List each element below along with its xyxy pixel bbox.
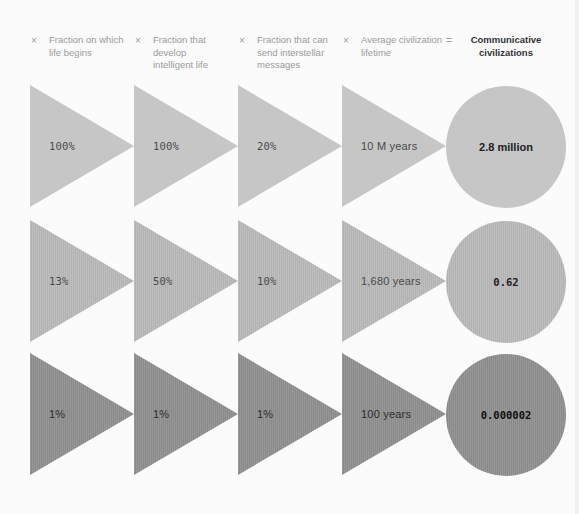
value-civilization-lifetime: 10 M years	[361, 85, 417, 207]
result-circle: 2.8 million	[446, 86, 566, 208]
triangle-shape	[238, 353, 342, 475]
scenario-row-pessimistic: 1% 1% 1% 100 years 0.000002	[0, 353, 579, 477]
value-interstellar-messages: 1%	[257, 353, 273, 475]
triangle-shape	[30, 85, 134, 207]
column-header-civilization-lifetime: Average civilization lifetime	[361, 34, 449, 59]
column-header-intelligent-life: Fraction that develop intelligent life	[153, 34, 223, 72]
triangle-shape	[134, 353, 238, 475]
equation-header: × Fraction on which life begins × Fracti…	[0, 0, 579, 80]
triangle-shape	[30, 353, 134, 475]
value-civilization-lifetime: 100 years	[361, 353, 411, 475]
triangle-shape	[134, 85, 238, 207]
result-value: 0.000002	[481, 409, 532, 421]
value-intelligent-life: 100%	[153, 85, 179, 207]
multiply-operator: ×	[239, 34, 245, 47]
triangle-shape	[238, 220, 342, 342]
value-civilization-lifetime: 1,680 years	[361, 220, 421, 342]
result-circle: 0.000002	[446, 354, 566, 476]
value-life-begins: 1%	[49, 353, 65, 475]
value-life-begins: 100%	[49, 85, 75, 207]
scenario-row-optimistic: 100% 100% 20% 10 M years 2.8 million	[0, 85, 579, 209]
value-life-begins: 13%	[49, 220, 69, 342]
value-intelligent-life: 1%	[153, 353, 169, 475]
triangle-shape	[238, 85, 342, 207]
result-value: 2.8 million	[479, 141, 533, 153]
value-interstellar-messages: 20%	[257, 85, 277, 207]
triangle-shape	[134, 220, 238, 342]
result-value: 0.62	[493, 276, 518, 288]
column-header-life-begins: Fraction on which life begins	[49, 34, 133, 59]
scenario-row-moderate: 13% 50% 10% 1,680 years 0.62	[0, 220, 579, 344]
multiply-operator: ×	[343, 34, 349, 47]
multiply-operator: ×	[135, 34, 141, 47]
triangle-shape	[30, 220, 134, 342]
result-circle: 0.62	[446, 221, 566, 343]
equals-operator: =	[446, 34, 452, 47]
multiply-operator: ×	[31, 34, 37, 47]
column-header-result: Communicative civilizations	[456, 34, 556, 59]
value-intelligent-life: 50%	[153, 220, 173, 342]
column-header-interstellar-messages: Fraction that can send interstellar mess…	[257, 34, 337, 72]
value-interstellar-messages: 10%	[257, 220, 277, 342]
